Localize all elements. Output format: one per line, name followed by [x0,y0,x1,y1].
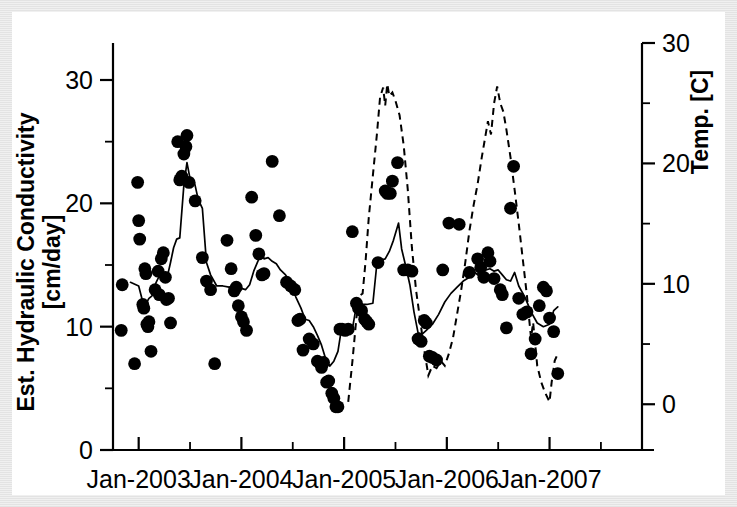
scatter-point [204,283,217,296]
y-axis-title-line1: Est. Hydraulic Conductivity [13,112,39,411]
scatter-point [420,317,433,330]
scatter-point [157,246,170,259]
scatter-point [131,176,144,189]
scatter-point [143,315,156,328]
scatter-point [181,129,194,142]
scatter-point [232,299,245,312]
x-tick-label: Jan-2003 [87,465,191,493]
scatter-point [543,312,556,325]
scatter-point [529,333,542,346]
scatter-point [540,285,553,298]
scatter-point [132,214,145,227]
scatter-point [273,209,286,222]
axes-group [100,43,655,450]
scatter-point [288,283,301,296]
y-tick-label: 0 [79,436,93,464]
y-tick-label: 20 [65,189,93,217]
x-tick-label: Jan-2004 [189,465,293,493]
figure-outer-frame: Est. Hydraulic Conductivity [cm/day] Tem… [0,0,737,507]
x-tick-label: Jan-2006 [395,465,499,493]
scatter-point [115,324,128,337]
scatter-point [463,266,476,279]
scatter-point [322,375,335,388]
scatter-point [317,356,330,369]
scatter-point [500,322,513,335]
y2-tick-label: 20 [662,149,690,177]
scatter-point [230,281,243,294]
scatter-point [252,248,265,261]
scatter-point [159,271,172,284]
scatter-point [504,202,517,215]
scatter-point [196,251,209,264]
hydraulic-conductivity-chart: Est. Hydraulic Conductivity [cm/day] Tem… [12,12,725,495]
scatter-point [145,345,158,358]
scatter-point [551,367,564,380]
scatter-point [496,288,509,301]
scatter-point [521,305,534,318]
scatter-point [180,140,193,153]
scatter-point [133,233,146,246]
scatter-point [225,262,238,275]
scatter-point [240,324,253,337]
scatter-point [258,267,271,280]
scatter-point [332,400,345,413]
scatter-point [372,256,385,269]
scatter-point [249,229,262,242]
y2-tick-label: 10 [662,270,690,298]
y2-axis-title: Temp. [C] [687,70,713,174]
y-tick-label: 30 [65,66,93,94]
scatter-point [547,325,560,338]
y2-tick-label: 30 [662,29,690,57]
scatter-point [266,155,279,168]
x-tick-label: Jan-2005 [292,465,396,493]
scatter-point [507,160,520,173]
scatter-point [307,338,320,351]
scatter-point [162,292,175,305]
scatter-point [362,318,375,331]
figure-canvas: Est. Hydraulic Conductivity [cm/day] Tem… [12,12,725,495]
scatter-point [183,176,196,189]
scatter-point [245,191,258,204]
scatter-point [430,354,443,367]
scatter-point [208,357,221,370]
scatter-point [139,267,152,280]
scatter-point [384,187,397,200]
scatter-point [525,347,538,360]
scatter-point [391,156,404,169]
scatter-point [533,299,546,312]
y-tick-label: 10 [65,313,93,341]
scatter-point [221,234,234,247]
scatter-point [137,302,150,315]
scatter-point [484,255,497,268]
scatter-point [512,292,525,305]
scatter-point [346,225,359,238]
scatter-point [189,194,202,207]
scatter-point [488,272,501,285]
scatter-point [128,357,141,370]
scatter-point [406,265,419,278]
scatter-point [453,218,466,231]
scatter-point [164,317,177,330]
y-axis-title-line2: [cm/day] [39,215,65,310]
x-tick-label: Jan-2007 [497,465,601,493]
scatter-point [342,323,355,336]
scatter-point [116,278,129,291]
scatter-point [415,335,428,348]
scatter-point [436,264,449,277]
y2-tick-label: 0 [662,390,676,418]
scatter-point [294,313,307,326]
scatter-point [386,175,399,188]
